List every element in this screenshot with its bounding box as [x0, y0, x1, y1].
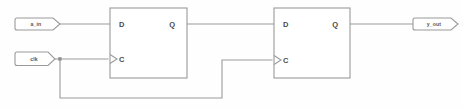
block-dff2[interactable]: D C Q	[274, 8, 350, 78]
circuit-schematic: D C Q D C Q a_in clk y_out	[0, 0, 463, 110]
dff2-pin-clock-label: C	[283, 56, 289, 65]
block-dff1[interactable]: D C Q	[110, 8, 187, 78]
dff1-pin-q-label: Q	[169, 20, 175, 29]
dff1-pin-clock-label: C	[119, 55, 125, 64]
dff1-pin-d-label: D	[119, 20, 125, 29]
dff1-body	[110, 8, 187, 78]
port-clk-label: clk	[30, 56, 38, 62]
junction-dot-clk-branch	[58, 57, 61, 60]
dff2-pin-q-label: Q	[332, 20, 338, 29]
dff2-pin-d-label: D	[283, 20, 289, 29]
port-a-in[interactable]: a_in	[15, 18, 60, 30]
schematic-canvas: D C Q D C Q a_in clk y_out	[0, 0, 463, 110]
port-y-out-label: y_out	[427, 21, 442, 27]
port-a-in-label: a_in	[31, 21, 42, 27]
port-y-out[interactable]: y_out	[413, 18, 458, 30]
dff2-body	[274, 8, 350, 78]
port-clk[interactable]: clk	[15, 52, 55, 66]
